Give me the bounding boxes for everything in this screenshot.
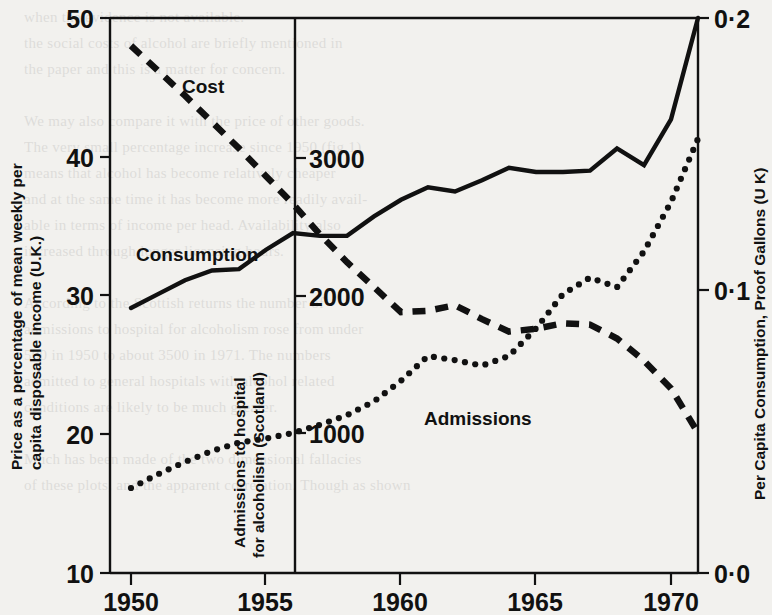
- series-dot-admissions: [532, 326, 538, 332]
- tick-label-x-1955: 1955: [237, 588, 293, 615]
- chart-svg: 50 40 30 20 10 3000 2000 1000 0·2 0·1 0·…: [0, 0, 772, 615]
- series-dot-admissions: [502, 354, 508, 360]
- series-dot-admissions: [492, 358, 498, 364]
- series-dot-admissions: [244, 438, 250, 444]
- series-dot-admissions: [552, 301, 558, 307]
- series-dot-admissions: [175, 462, 181, 468]
- series-dot-admissions: [414, 363, 420, 369]
- series-dot-admissions: [594, 277, 600, 283]
- series-dot-admissions: [214, 446, 220, 452]
- tick-label-y-left-40: 40: [66, 144, 94, 172]
- series-dot-admissions: [585, 276, 591, 282]
- series-dot-admissions: [510, 348, 516, 354]
- figure-alcohol-trends: 50 40 30 20 10 3000 2000 1000 0·2 0·1 0·…: [0, 0, 772, 615]
- axis-title-inner-line1: Admissions to hospital: [231, 377, 248, 548]
- series-dot-admissions: [576, 281, 582, 287]
- series-dot-admissions: [655, 223, 661, 229]
- tick-label-y-inner-3000: 3000: [309, 145, 365, 173]
- series-dot-admissions: [441, 355, 447, 361]
- series-dot-admissions: [224, 443, 230, 449]
- series-dot-admissions: [627, 267, 633, 273]
- series-dot-admissions: [462, 359, 468, 365]
- series-dot-admissions: [296, 428, 302, 434]
- tick-label-y-right-00: 0·0: [714, 560, 750, 588]
- series-dot-admissions: [382, 390, 388, 396]
- tick-label-y-left-50: 50: [66, 5, 94, 33]
- series-dot-admissions: [650, 232, 656, 238]
- series-dot-admissions: [558, 293, 564, 299]
- series-dot-admissions: [665, 204, 671, 210]
- series-dot-admissions: [422, 356, 428, 362]
- series-label-consumption: Consumption: [136, 244, 258, 265]
- series-dot-admissions: [373, 396, 379, 402]
- tick-label-y-inner-2000: 2000: [309, 283, 365, 311]
- series-dot-admissions: [431, 354, 437, 360]
- series-dot-admissions: [639, 250, 645, 256]
- axis-title-right: Per Capita Consumption, Proof Gallons (U…: [751, 168, 768, 500]
- tick-label-y-right-02: 0·2: [714, 5, 750, 33]
- tick-label-x-1965: 1965: [507, 588, 563, 615]
- chart-axis-titles: Price as a percentage of mean weekly per…: [8, 163, 768, 558]
- chart-tick-labels: 50 40 30 20 10 3000 2000 1000 0·2 0·1 0·…: [66, 5, 750, 615]
- series-dot-admissions: [678, 176, 684, 182]
- series-dot-admissions: [482, 361, 488, 367]
- series-dot-admissions: [567, 287, 573, 293]
- series-label-cost: Cost: [182, 76, 225, 97]
- series-dot-admissions: [694, 137, 700, 143]
- series-label-admissions: Admissions: [424, 408, 532, 429]
- chart-series-labels: Cost Consumption Admissions: [136, 76, 532, 429]
- series-dot-admissions: [525, 333, 531, 339]
- tick-label-x-1970: 1970: [643, 588, 699, 615]
- series-dot-admissions: [147, 475, 153, 481]
- tick-label-y-right-01: 0·1: [714, 277, 750, 305]
- axis-title-left-line2: capita disposable income (U.K.): [27, 236, 44, 470]
- series-dot-admissions: [185, 458, 191, 464]
- series-dot-admissions: [355, 406, 361, 412]
- series-dot-admissions: [346, 411, 352, 417]
- series-dot-admissions: [275, 433, 281, 439]
- series-dot-admissions: [633, 259, 639, 265]
- series-dot-admissions: [306, 425, 312, 431]
- series-dot-admissions: [472, 361, 478, 367]
- series-dot-admissions: [194, 454, 200, 460]
- series-dot-admissions: [604, 281, 610, 287]
- series-dot-admissions: [326, 418, 332, 424]
- chart-ticks: [100, 18, 709, 585]
- series-dot-admissions: [406, 370, 412, 376]
- series-dot-admissions: [234, 440, 240, 446]
- tick-label-y-left-20: 20: [66, 421, 94, 449]
- series-dot-admissions: [614, 284, 620, 290]
- chart-axes: [110, 18, 698, 573]
- tick-label-y-left-30: 30: [66, 282, 94, 310]
- series-dot-admissions: [166, 466, 172, 472]
- series-dot-admissions: [137, 480, 143, 486]
- series-dot-admissions: [364, 402, 370, 408]
- series-dot-admissions: [128, 485, 134, 491]
- axis-title-left-line1: Price as a percentage of mean weekly per: [8, 163, 25, 470]
- series-dot-admissions: [682, 166, 688, 172]
- series-dot-admissions: [204, 450, 210, 456]
- series-dot-admissions: [452, 357, 458, 363]
- series-dot-admissions: [645, 241, 651, 247]
- tick-label-y-left-10: 10: [66, 560, 94, 588]
- series-dot-admissions: [156, 471, 162, 477]
- series-dot-admissions: [686, 156, 692, 162]
- tick-label-x-1950: 1950: [103, 588, 159, 615]
- series-dot-admissions: [398, 377, 404, 383]
- series-dot-admissions: [660, 214, 666, 220]
- series-dot-admissions: [690, 147, 696, 153]
- series-dot-admissions: [518, 341, 524, 347]
- series-line-cost: [131, 46, 698, 433]
- series-dot-admissions: [316, 422, 322, 428]
- axis-title-inner-line2: for alcoholism (Scotland): [250, 372, 267, 558]
- series-dot-admissions: [390, 384, 396, 390]
- series-dot-admissions: [674, 185, 680, 191]
- series-dot-admissions: [255, 437, 261, 443]
- series-dot-admissions: [620, 275, 626, 281]
- series-dot-admissions: [539, 318, 545, 324]
- series-dot-admissions: [670, 195, 676, 201]
- tick-label-x-1960: 1960: [372, 588, 428, 615]
- series-dot-admissions: [286, 431, 292, 437]
- series-dot-admissions: [265, 435, 271, 441]
- series-dot-admissions: [336, 415, 342, 421]
